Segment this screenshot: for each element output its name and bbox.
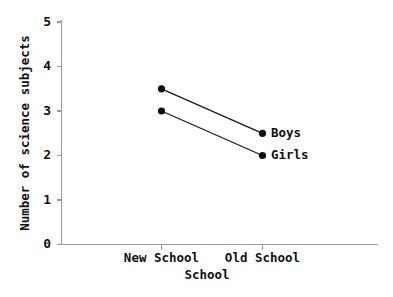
x-axis-title: School <box>184 267 229 282</box>
y-tick-label-2: 2 <box>43 147 51 162</box>
y-axis-title: Number of science subjects <box>17 35 32 231</box>
x-tick-label-new-school: New School <box>124 250 199 265</box>
series-label-boys: Boys <box>271 125 301 140</box>
axis-group <box>62 20 379 245</box>
series-boys: Boys <box>158 85 301 140</box>
y-tick-label-4: 4 <box>43 58 51 73</box>
series-boys-point-new-school <box>158 85 165 92</box>
y-tick-label-5: 5 <box>43 14 51 29</box>
line-chart-canvas: 0 1 2 3 4 5 New School Old School School… <box>0 0 393 297</box>
series-boys-point-old-school <box>259 130 266 137</box>
x-tick-label-old-school: Old School <box>225 250 300 265</box>
chart-container: 0 1 2 3 4 5 New School Old School School… <box>0 0 393 297</box>
series-girls-line <box>162 111 263 156</box>
series-boys-line <box>162 89 263 134</box>
y-tick-label-1: 1 <box>43 192 51 207</box>
series-label-girls: Girls <box>271 147 309 162</box>
x-tick-labels: New School Old School <box>124 250 300 265</box>
series-girls-point-new-school <box>158 107 165 114</box>
y-tick-labels: 0 1 2 3 4 5 <box>43 14 51 252</box>
series-girls-point-old-school <box>259 152 266 159</box>
y-tick-label-3: 3 <box>43 103 51 118</box>
y-tick-label-0: 0 <box>43 236 51 251</box>
